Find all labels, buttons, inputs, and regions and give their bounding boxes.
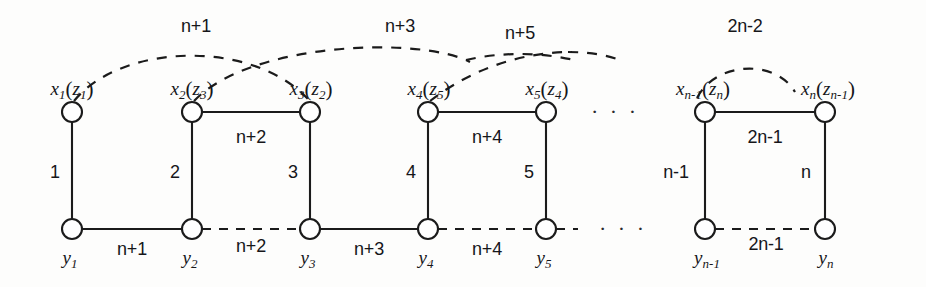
vertex-yn[interactable] [815, 219, 835, 239]
vertex-label-x1: x1(z1) [50, 79, 93, 101]
vertex-label-x5: x5(z4) [525, 79, 568, 101]
vertex-label-y5: y5 [536, 248, 551, 270]
vertex-y4[interactable] [418, 219, 438, 239]
edge-label-top-n-plus-2: n+2 [236, 128, 266, 146]
vertex-label-xn-1-main-sub: n-1 [684, 87, 702, 102]
ellipsis-bottom-row: · · · [599, 218, 647, 240]
vertical-edge-group [72, 122, 825, 219]
vertex-label-yn: yn [818, 248, 833, 270]
vertex-y2[interactable] [182, 219, 202, 239]
arc-label-n-plus-1: n+1 [181, 17, 211, 35]
vertex-label-y3-sub: 3 [309, 256, 316, 271]
ellipsis-top-row: · · · [591, 101, 639, 123]
vertex-x5[interactable] [536, 102, 556, 122]
vertex-label-y2-sub: 2 [191, 256, 198, 271]
edge-label-bottom-n-plus-1: n+1 [117, 240, 147, 258]
arc-label-2n-minus-2: 2n-2 [727, 17, 762, 35]
vertex-label-x3: x3(z2) [289, 79, 332, 101]
edge-label-bottom-n-plus-2: n+2 [236, 237, 266, 255]
edge-label-vertical-3: 3 [288, 163, 298, 181]
paren-close: ) [87, 77, 94, 101]
edge-label-vertical-5: 5 [524, 163, 534, 181]
edge-label-top-n-plus-4: n+4 [472, 128, 502, 146]
vertex-label-y3: y3 [300, 248, 315, 270]
edge-label-vertical-4: 4 [406, 163, 416, 181]
edge-label-bottom-n-plus-4: n+4 [472, 240, 502, 258]
vertex-label-yn-1: yn-1 [694, 248, 720, 270]
vertex-label-x4: x4(z5) [407, 79, 450, 101]
paren-close: ) [562, 77, 569, 101]
paren-open: ( [423, 77, 430, 101]
vertex-y3[interactable] [300, 219, 320, 239]
vertex-xn-1[interactable] [695, 102, 715, 122]
paren-open: ( [541, 77, 548, 101]
vertex-label-yn-sub: n [827, 256, 834, 271]
vertex-y5[interactable] [536, 219, 556, 239]
paren-close: ) [326, 77, 333, 101]
edge-label-bottom-n-plus-3: n+3 [354, 240, 384, 258]
vertex-label-y2: y2 [182, 248, 197, 270]
vertex-label-y1: y1 [62, 248, 77, 270]
vertex-xn[interactable] [815, 102, 835, 122]
paren-open: ( [186, 77, 193, 101]
edge-label-vertical-n-minus-1: n-1 [663, 163, 688, 181]
vertex-label-xn-1: xn-1(zn) [676, 79, 730, 101]
edge-label-vertical-n: n [801, 163, 811, 181]
vertex-yn-1[interactable] [695, 219, 715, 239]
vertex-label-y1-sub: 1 [71, 256, 78, 271]
paren-open: ( [816, 77, 823, 101]
paren-open: ( [66, 77, 73, 101]
vertex-y1[interactable] [62, 219, 82, 239]
vertex-label-yn-1-sub: n-1 [702, 256, 720, 271]
edge-label-bottom-2n-minus-1: 2n-1 [748, 235, 783, 253]
vertex-x3[interactable] [300, 102, 320, 122]
vertex-label-xn-alt-sub: n-1 [830, 87, 848, 102]
edge-label-vertical-2: 2 [170, 163, 180, 181]
vertex-x1[interactable] [62, 102, 82, 122]
vertex-label-y4: y4 [418, 248, 433, 270]
paren-close: ) [848, 77, 855, 101]
vertex-label-y5-sub: 5 [545, 256, 552, 271]
arc-label-n-plus-5: n+5 [505, 24, 535, 42]
graph-figure: n+1 n+3 n+5 2n-2 x1(z1) x2(z3) x3(z2) x4… [0, 0, 926, 287]
paren-close: ) [444, 77, 451, 101]
arc-n-plus-5-tail [568, 52, 622, 61]
paren-open: ( [305, 77, 312, 101]
arc-label-n-plus-3: n+3 [385, 17, 415, 35]
paren-close: ) [207, 77, 214, 101]
vertex-label-xn: xn(zn-1) [801, 79, 855, 101]
vertex-x4[interactable] [418, 102, 438, 122]
vertex-label-x2: x2(z3) [170, 79, 213, 101]
vertex-x2[interactable] [182, 102, 202, 122]
paren-close: ) [723, 77, 730, 101]
vertex-label-y4-sub: 4 [427, 256, 434, 271]
edge-label-top-2n-minus-1: 2n-1 [747, 128, 782, 146]
edge-label-vertical-1: 1 [50, 163, 60, 181]
